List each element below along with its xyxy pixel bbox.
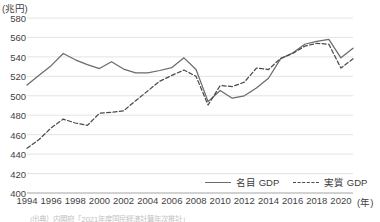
legend-line-solid-icon — [205, 178, 231, 186]
legend-line-dashed-icon — [293, 178, 319, 186]
x-axis-tick-2014: 2014 — [258, 195, 279, 206]
x-axis-tick-2002: 2002 — [113, 195, 134, 206]
legend-item-nominal-gdp[interactable]: 名目 GDP — [205, 175, 279, 189]
x-axis-tick-2020: 2020 — [330, 195, 351, 206]
x-axis-tick-1996: 1996 — [41, 195, 62, 206]
x-axis-tick-1994: 1994 — [16, 195, 37, 206]
x-axis-tick-2016: 2016 — [282, 195, 303, 206]
x-axis-tick-2008: 2008 — [185, 195, 206, 206]
x-axis-tick-1998: 1998 — [65, 195, 86, 206]
source-note: (出典）内閣府「2021年度国民経済計算年次推計」 — [30, 213, 370, 222]
x-axis-tick-2004: 2004 — [137, 195, 158, 206]
legend-item-real-gdp[interactable]: 実質 GDP — [293, 175, 367, 189]
legend-label-real-gdp: 実質 GDP — [324, 175, 367, 189]
x-axis-tick-2010: 2010 — [210, 195, 231, 206]
gdp-line-chart: (兆円) 580560540520500480460440420400 1994… — [0, 0, 380, 222]
x-axis-tick-2000: 2000 — [89, 195, 110, 206]
x-axis-tick-2012: 2012 — [234, 195, 255, 206]
chart-legend: 名目 GDP 実質 GDP — [205, 175, 367, 189]
legend-label-nominal-gdp: 名目 GDP — [236, 175, 279, 189]
x-axis-unit-label: (年) — [357, 195, 373, 209]
x-axis-tick-2018: 2018 — [306, 195, 327, 206]
x-axis-tick-2006: 2006 — [161, 195, 182, 206]
